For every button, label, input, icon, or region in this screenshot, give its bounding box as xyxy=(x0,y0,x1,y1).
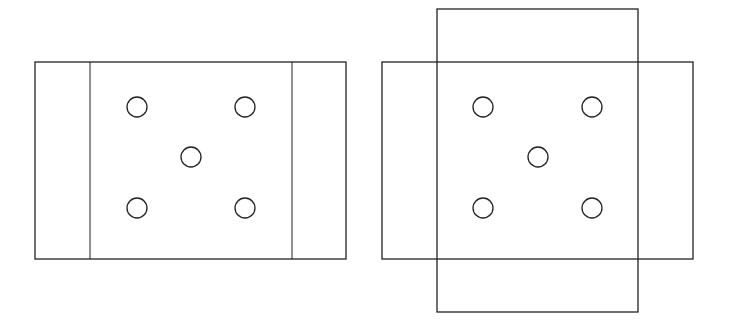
hole-circle xyxy=(127,97,147,117)
panel-rect xyxy=(35,62,346,259)
right-figure xyxy=(382,9,693,312)
hole-circle xyxy=(235,97,255,117)
panel-rect xyxy=(437,9,638,312)
diagram-canvas xyxy=(0,0,731,330)
left-figure xyxy=(35,62,346,259)
panel-rect xyxy=(382,62,693,259)
hole-circle xyxy=(582,97,602,117)
hole-circle xyxy=(473,97,493,117)
hole-circle xyxy=(582,198,602,218)
hole-circle xyxy=(473,198,493,218)
hole-circle xyxy=(235,198,255,218)
hole-circle xyxy=(181,147,201,167)
hole-circle xyxy=(127,198,147,218)
hole-circle xyxy=(528,147,548,167)
